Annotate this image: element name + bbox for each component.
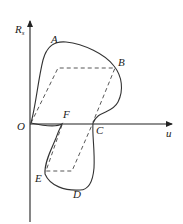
point-label-d: D [72, 188, 81, 200]
point-label-c: C [96, 124, 104, 136]
diagram-canvas: Rs u O A B C D E F [0, 0, 183, 224]
x-axis-label: u [166, 127, 172, 139]
point-label-e: E [34, 172, 42, 184]
dashed-guide-upper [31, 68, 115, 123]
hysteresis-curve [31, 42, 121, 190]
point-label-f: F [62, 108, 70, 120]
dashed-guide-lower [46, 125, 92, 171]
origin-label: O [17, 120, 25, 132]
point-label-b: B [118, 56, 125, 68]
point-label-a: A [50, 33, 58, 45]
y-axis-label: Rs [14, 23, 25, 37]
